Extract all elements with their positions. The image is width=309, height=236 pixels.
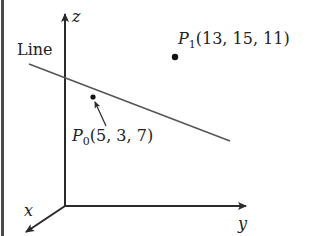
diagram-canvas: z y x Line P1(13, 15, 11) P0(5, 3, 7) <box>0 0 309 236</box>
point-p1-name: P <box>178 29 189 48</box>
y-axis-label: y <box>238 216 247 232</box>
point-p1-subscript: 1 <box>189 38 196 51</box>
point-p0-coords: (5, 3, 7) <box>90 126 153 145</box>
point-p1-dot <box>172 54 178 60</box>
p0-pointer-arrow <box>95 102 106 126</box>
point-p0-dot <box>90 94 95 99</box>
point-p1-coords: (13, 15, 11) <box>196 29 290 48</box>
point-p0-subscript: 0 <box>83 135 90 148</box>
point-p0-name: P <box>72 126 83 145</box>
line-label: Line <box>17 42 53 58</box>
z-axis-label: z <box>72 9 80 25</box>
point-p1-label: P1(13, 15, 11) <box>178 31 290 50</box>
point-p0-label: P0(5, 3, 7) <box>72 128 153 147</box>
x-axis-label: x <box>24 203 33 219</box>
